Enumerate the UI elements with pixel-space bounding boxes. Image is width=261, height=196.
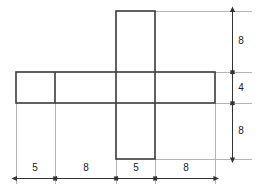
vertical-bar-rect [116,11,155,159]
label-bottom-8-left: 8 [83,162,89,173]
technical-drawing-canvas: 5 8 5 8 8 4 8 [0,0,261,196]
label-right-4-middle: 4 [238,82,244,93]
cross-shape-outline [16,11,215,159]
label-right-8-bottom: 8 [238,125,244,136]
label-bottom-8-right: 8 [183,162,189,173]
label-bottom-5-left: 5 [32,162,38,173]
extension-lines [17,12,253,185]
cross-dimension-drawing: 5 8 5 8 8 4 8 [0,0,261,196]
label-right-8-top: 8 [238,35,244,46]
label-bottom-5-center: 5 [133,162,139,173]
